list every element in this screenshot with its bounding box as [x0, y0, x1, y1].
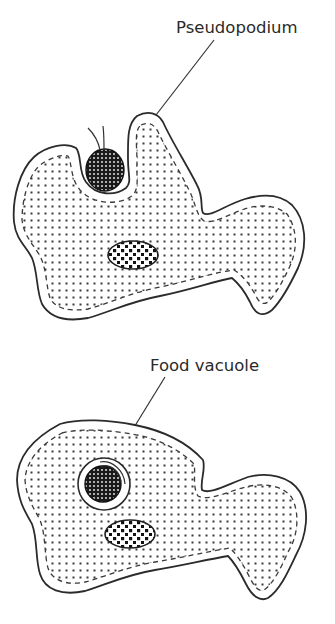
top-panel: Pseudopodium	[14, 18, 305, 319]
top-nucleus	[108, 241, 158, 269]
bottom-nucleus	[105, 520, 155, 548]
bottom-food-particle	[85, 466, 121, 502]
top-food-tail-1	[88, 128, 100, 150]
amoeba-diagram: Pseudopodium Food vacuole	[0, 0, 335, 624]
pseudopodium-leader-line	[156, 40, 214, 115]
label-pseudopodium: Pseudopodium	[176, 18, 298, 37]
label-food-vacuole: Food vacuole	[150, 356, 259, 375]
bottom-panel: Food vacuole	[17, 356, 306, 599]
top-food-tail-2	[103, 126, 104, 150]
top-food-particle	[86, 149, 124, 191]
